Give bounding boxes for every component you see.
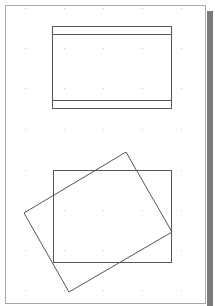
grid-dot bbox=[103, 250, 104, 251]
grid-dot bbox=[25, 88, 26, 89]
grid-dot bbox=[64, 129, 65, 130]
grid-dot bbox=[25, 250, 26, 251]
grid-dot bbox=[142, 48, 143, 49]
grid-dot bbox=[181, 48, 182, 49]
rotated-rectangle[interactable] bbox=[24, 152, 172, 292]
grid-dot bbox=[64, 88, 65, 89]
grid-dot bbox=[181, 129, 182, 130]
grid-dot bbox=[64, 250, 65, 251]
grid-dot bbox=[142, 8, 143, 9]
grid-dot bbox=[25, 48, 26, 49]
grid-dot bbox=[25, 170, 26, 171]
grid-dot bbox=[103, 8, 104, 9]
drawing-canvas[interactable] bbox=[0, 0, 215, 306]
grid-dot bbox=[181, 88, 182, 89]
grid-dot bbox=[103, 88, 104, 89]
grid-dot bbox=[25, 129, 26, 130]
grid-dot bbox=[25, 290, 26, 291]
grid-dot bbox=[64, 48, 65, 49]
top-rectangle[interactable] bbox=[53, 27, 172, 109]
grid-dot bbox=[181, 290, 182, 291]
grid-dot bbox=[103, 129, 104, 130]
grid-dot bbox=[103, 210, 104, 211]
grid-dot bbox=[25, 8, 26, 9]
grid-dot bbox=[142, 88, 143, 89]
grid-dot bbox=[64, 210, 65, 211]
grid-dot bbox=[103, 290, 104, 291]
grid-dot bbox=[64, 8, 65, 9]
grid-dot bbox=[142, 250, 143, 251]
grid-dot bbox=[181, 210, 182, 211]
grid-dot bbox=[181, 8, 182, 9]
grid-dot bbox=[103, 48, 104, 49]
grid-dot bbox=[142, 210, 143, 211]
grid-dot bbox=[64, 290, 65, 291]
grid-dot bbox=[181, 250, 182, 251]
grid-dot bbox=[181, 170, 182, 171]
grid-dot bbox=[25, 210, 26, 211]
grid-dot bbox=[142, 129, 143, 130]
grid-dot bbox=[142, 290, 143, 291]
